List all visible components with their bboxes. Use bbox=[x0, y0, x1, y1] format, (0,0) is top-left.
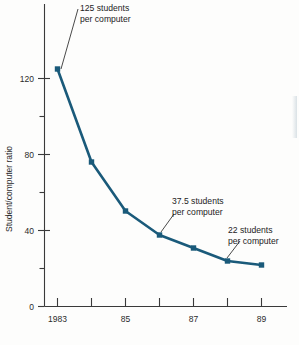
y-tick-label-40: 40 bbox=[25, 226, 35, 236]
data-point-1988 bbox=[225, 258, 230, 263]
data-point-1984 bbox=[89, 159, 94, 164]
x-tick-label-1987: 87 bbox=[189, 314, 199, 324]
y-tick-label-120: 120 bbox=[20, 74, 34, 84]
y-tick-label-0: 0 bbox=[29, 302, 34, 312]
annotation-leader-1983 bbox=[61, 9, 78, 69]
annotation-1986-line1: 37.5 students bbox=[172, 196, 224, 206]
line-chart: 120 80 40 0 Student/computer ratio 1983 … bbox=[0, 0, 299, 345]
data-point-1989 bbox=[259, 262, 264, 267]
x-tick-label-1989: 89 bbox=[257, 314, 267, 324]
annotation-1986-line2: per computer bbox=[172, 207, 223, 217]
x-tick-label-1983: 1983 bbox=[48, 314, 67, 324]
annotation-1989-line1: 22 students bbox=[228, 225, 272, 235]
data-point-1983 bbox=[55, 66, 60, 71]
data-point-1985 bbox=[123, 208, 128, 213]
x-tick-label-1985: 85 bbox=[121, 314, 131, 324]
y-tick-label-80: 80 bbox=[25, 150, 35, 160]
data-point-1987 bbox=[191, 245, 196, 250]
chart-container: 120 80 40 0 Student/computer ratio 1983 … bbox=[0, 0, 299, 345]
annotation-1983-line2: per computer bbox=[80, 14, 131, 24]
annotation-1989-line2: per computer bbox=[228, 236, 279, 246]
annotation-1983-line1: 125 students bbox=[80, 3, 129, 13]
y-axis-title: Student/computer ratio bbox=[4, 146, 14, 232]
data-point-1986 bbox=[157, 232, 162, 237]
